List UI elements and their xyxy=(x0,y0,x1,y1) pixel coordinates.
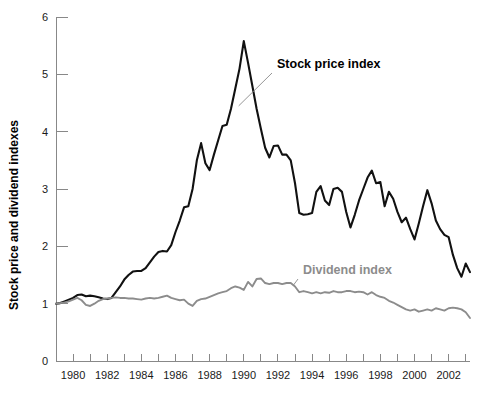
stock-price-index-line xyxy=(56,41,470,304)
annotation-leader-line-dividend xyxy=(293,279,298,285)
x-tick-label: 1986 xyxy=(163,369,187,381)
dividend-index-line xyxy=(56,278,470,318)
y-axis-title: Stock price and dividend indexes xyxy=(7,120,21,310)
x-tick-label: 2002 xyxy=(436,369,460,381)
line-chart: 0123456198019821984198619881990199219941… xyxy=(0,0,491,398)
x-tick-label: 1984 xyxy=(129,369,153,381)
annotations: Stock price indexDividend index xyxy=(239,57,392,285)
annotation-label-stock: Stock price index xyxy=(277,57,381,71)
x-tick-label: 1996 xyxy=(334,369,358,381)
x-tick-label: 1990 xyxy=(232,369,256,381)
annotation-label-dividend: Dividend index xyxy=(303,263,392,277)
chart-container: 0123456198019821984198619881990199219941… xyxy=(0,0,491,398)
y-tick-label: 0 xyxy=(42,355,48,367)
y-tick-label: 2 xyxy=(42,240,48,252)
x-tick-label: 1998 xyxy=(368,369,392,381)
y-tick-label: 5 xyxy=(42,68,48,80)
x-tick-label: 1980 xyxy=(61,369,85,381)
y-tick-label: 6 xyxy=(42,11,48,23)
x-tick-label: 1988 xyxy=(197,369,221,381)
data-series xyxy=(56,41,470,318)
x-tick-label: 1994 xyxy=(300,369,324,381)
y-tick-label: 1 xyxy=(42,298,48,310)
y-tick-label: 3 xyxy=(42,183,48,195)
axes: 0123456198019821984198619881990199219941… xyxy=(42,11,470,381)
x-tick-label: 1982 xyxy=(95,369,119,381)
x-tick-label: 2000 xyxy=(402,369,426,381)
x-tick-label: 1992 xyxy=(266,369,290,381)
y-tick-label: 4 xyxy=(42,126,48,138)
